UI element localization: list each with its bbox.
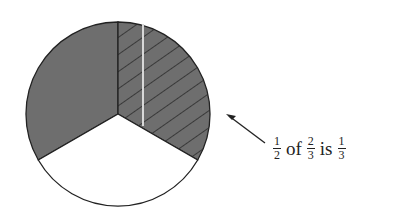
- is-word: is: [320, 138, 333, 160]
- of-word: of: [286, 138, 302, 160]
- fraction-one-half: 12: [273, 136, 281, 161]
- fraction-statement: 12 of 23 is 13: [273, 136, 346, 161]
- arrow-icon: [226, 114, 265, 143]
- pie-diagram: [0, 0, 404, 208]
- fraction-two-thirds: 23: [307, 136, 315, 161]
- fraction-one-third: 13: [338, 136, 346, 161]
